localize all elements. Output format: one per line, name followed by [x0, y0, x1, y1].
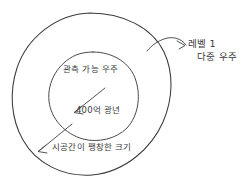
label-multiverse-name: 다중 우주 — [197, 52, 237, 63]
label-multiverse-callout: 레벨 1 다중 우주 — [188, 39, 237, 63]
diagram-canvas: 관측 가능 우주 400억 광년 시공간이 팽창한 크기 레벨 1 다중 우주 — [0, 0, 246, 191]
label-observable-universe: 관측 가능 우주 — [63, 65, 118, 75]
outer-radius-arrow-head — [38, 145, 47, 153]
label-expansion-size: 시공간이 팽창한 크기 — [52, 143, 132, 153]
hand-drawn-sketch — [0, 0, 246, 191]
multiverse-callout-arrow-shaft — [147, 38, 186, 51]
label-multiverse-level: 레벨 1 — [188, 38, 216, 49]
label-light-years: 400억 광년 — [76, 106, 120, 116]
